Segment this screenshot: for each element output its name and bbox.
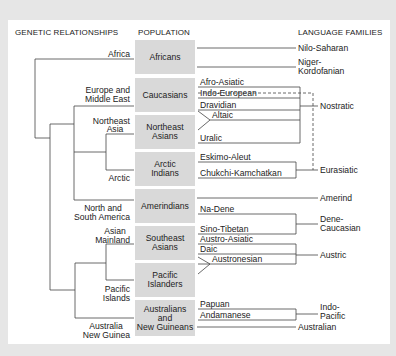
language-austro-asiatic: Austro-Asiatic xyxy=(200,235,253,244)
header-genetic-relationships: GENETIC RELATIONSHIPS xyxy=(15,28,118,37)
region-asian-mainland-line2: Mainland xyxy=(95,236,130,245)
population-arctic-indians: Arctic Indians xyxy=(135,152,195,186)
population-label: Asians xyxy=(152,132,178,141)
population-amerindians: Amerindians xyxy=(135,189,195,223)
header-language-families: LANGUAGE FAMILIES xyxy=(298,28,382,37)
population-australians-new-guineans: Australians and New Guineans xyxy=(135,300,195,336)
population-label: Islanders xyxy=(148,280,183,289)
family-nilo-saharan: Nilo-Saharan xyxy=(298,44,348,53)
family-austric: Austric xyxy=(320,251,346,260)
region-arctic: Arctic xyxy=(109,174,130,183)
family-nostratic: Nostratic xyxy=(320,102,354,111)
family-australian: Australian xyxy=(298,323,336,332)
population-label: Caucasians xyxy=(143,91,188,100)
family-dene-caucasian-line2: Caucasian xyxy=(320,224,361,233)
family-niger-line2: Kordofanian xyxy=(298,67,344,76)
language-na-dene: Na-Dene xyxy=(200,205,234,214)
language-andamanese: Andamanese xyxy=(200,311,251,320)
population-southeast-asians: Southeast Asians xyxy=(135,226,195,260)
language-papuan: Papuan xyxy=(200,300,230,309)
language-eskimo-aleut: Eskimo-Aleut xyxy=(200,153,251,162)
population-pacific-islanders: Pacific Islanders xyxy=(135,263,195,297)
region-australia-line2: New Guinea xyxy=(83,331,130,340)
population-label: Indians xyxy=(151,169,179,178)
region-pacific-islands-line2: Islands xyxy=(103,294,130,303)
language-indo-european: Indo-European xyxy=(200,89,257,98)
population-label: Amerindians xyxy=(141,202,189,211)
family-amerind: Amerind xyxy=(320,194,352,203)
population-northeast-asians: Northeast Asians xyxy=(135,115,195,149)
region-northeast-asia-line2: Asia xyxy=(100,125,130,134)
family-eurasiatic: Eurasiatic xyxy=(320,166,358,175)
language-chukchi-kamchatkan: Chukchi-Kamchatkan xyxy=(200,169,282,178)
language-austronesian: Austronesian xyxy=(212,255,262,264)
language-afro-asiatic: Afro-Asiatic xyxy=(200,78,244,87)
language-uralic: Uralic xyxy=(200,134,222,143)
region-europe-line2: Middle East xyxy=(85,95,130,104)
population-label: Africans xyxy=(149,53,180,62)
family-indo-pacific-line2: Pacific xyxy=(320,312,345,321)
language-altaic: Altaic xyxy=(212,111,233,120)
header-population: POPULATION xyxy=(138,28,190,37)
population-caucasians: Caucasians xyxy=(135,78,195,112)
region-americas-line2: South America xyxy=(74,213,130,222)
region-africa: Africa xyxy=(108,50,130,59)
population-label: New Guineans xyxy=(137,323,193,332)
population-africans: Africans xyxy=(135,40,195,74)
language-sino-tibetan: Sino-Tibetan xyxy=(200,225,248,234)
language-daic: Daic xyxy=(200,245,217,254)
language-dravidian: Dravidian xyxy=(200,101,236,110)
population-label: Asians xyxy=(152,243,178,252)
